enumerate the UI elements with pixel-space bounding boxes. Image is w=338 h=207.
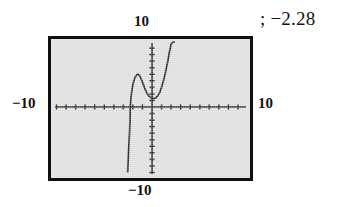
window-label-ymax: 10 (134, 13, 149, 30)
item-label-fragment: ) (0, 12, 7, 38)
calculator-screen-frame (48, 36, 253, 181)
answer-annotation: ; −2.28 (260, 8, 315, 30)
axes-group (55, 43, 246, 174)
calculator-graph-figure: ) ; −2.28 10 −10 −10 10 (0, 0, 338, 207)
graph-canvas (51, 39, 250, 178)
calculator-screen (51, 39, 250, 178)
window-label-xmin: −10 (12, 95, 36, 112)
window-label-xmax: 10 (258, 95, 273, 112)
window-label-ymin: −10 (128, 182, 152, 199)
